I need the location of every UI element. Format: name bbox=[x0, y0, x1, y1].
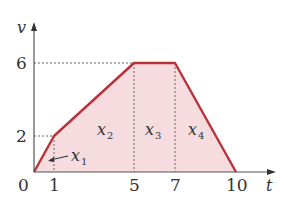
x-tick-7: 7 bbox=[170, 175, 181, 195]
x-tick-5: 5 bbox=[129, 175, 140, 195]
svg-text:x: x bbox=[71, 146, 80, 165]
y-tick-6: 6 bbox=[16, 53, 27, 73]
x-tick-10: 10 bbox=[226, 175, 248, 195]
svg-text:2: 2 bbox=[107, 130, 113, 141]
x-tick-1: 1 bbox=[49, 175, 60, 195]
y-axis-label: v bbox=[17, 18, 26, 37]
svg-text:4: 4 bbox=[198, 130, 204, 141]
x-axis-label: t bbox=[266, 176, 273, 195]
velocity-time-diagram: v t 6 2 0 1 5 7 10 x 2 x 3 x 4 x 1 bbox=[0, 0, 289, 206]
svg-text:3: 3 bbox=[155, 130, 161, 141]
x-tick-0: 0 bbox=[18, 175, 29, 195]
y-tick-2: 2 bbox=[16, 126, 27, 146]
y-axis-arrow-icon bbox=[31, 22, 37, 31]
svg-text:x: x bbox=[97, 120, 106, 139]
svg-text:x: x bbox=[145, 120, 154, 139]
x-axis-arrow-icon bbox=[267, 169, 276, 175]
svg-text:1: 1 bbox=[81, 156, 87, 167]
svg-text:x: x bbox=[188, 120, 197, 139]
